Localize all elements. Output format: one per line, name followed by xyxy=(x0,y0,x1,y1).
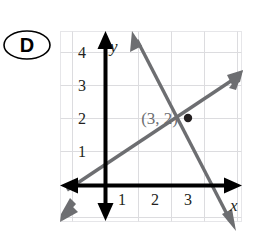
figure-page: y x 4 3 2 1 1 2 3 (3, 2) D xyxy=(0,0,256,233)
y-tick-label-3: 3 xyxy=(78,77,86,94)
choice-letter-badge: D xyxy=(4,31,50,59)
coordinate-plane-figure: y x 4 3 2 1 1 2 3 (3, 2) D xyxy=(0,0,256,233)
x-tick-label-1: 1 xyxy=(118,191,126,208)
y-axis-label: y xyxy=(108,37,118,56)
point-annotation-label: (3, 2) xyxy=(141,109,178,128)
x-axis-label: x xyxy=(229,196,238,215)
choice-letter-text: D xyxy=(20,34,34,56)
y-tick-label-4: 4 xyxy=(78,44,86,61)
x-tick-label-2: 2 xyxy=(151,191,159,208)
y-tick-label-2: 2 xyxy=(78,110,86,127)
intersection-point-marker xyxy=(184,114,192,122)
y-tick-label-1: 1 xyxy=(78,143,86,160)
x-tick-label-3: 3 xyxy=(184,191,192,208)
